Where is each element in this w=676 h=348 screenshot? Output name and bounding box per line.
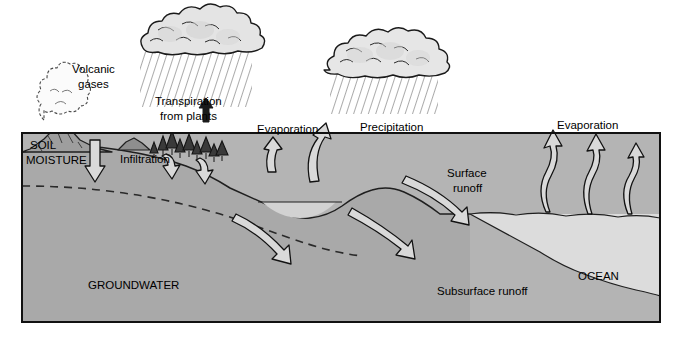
label-groundwater: GROUNDWATER [88,279,179,291]
label-evaporation-land: Evaporation [257,123,318,135]
label-surface-runoff-line2: runoff [453,182,483,194]
label-precipitation: Precipitation [360,121,423,133]
label-transpiration-line1: Transpiration [155,95,222,107]
label-soil-moisture-line2: MOISTURE [26,154,87,166]
label-ocean: OCEAN [578,270,619,282]
water-cycle-figure: Volcanic gases Transpiration from plants… [0,0,676,348]
label-subsurface-runoff: Subsurface runoff [437,285,528,297]
label-volcanic-gases-line2: gases [78,78,109,90]
label-transpiration-line2: from plants [160,110,217,122]
diagram-canvas: Volcanic gases Transpiration from plants… [0,0,676,348]
label-evaporation-ocean: Evaporation [557,119,618,131]
label-soil-moisture-line1: SOIL [30,139,57,151]
terrain-group [22,124,660,322]
label-surface-runoff-line1: Surface [447,167,487,179]
label-infiltration: Infiltration [120,153,170,165]
label-volcanic-gases-line1: Volcanic [72,63,115,75]
